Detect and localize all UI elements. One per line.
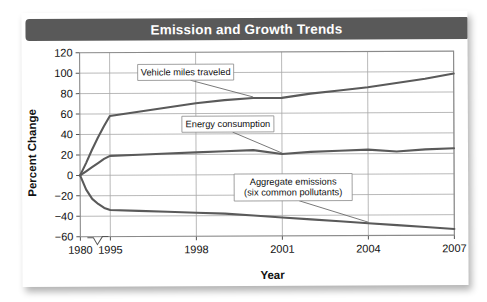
chart-title-banner: Emission and Growth Trends xyxy=(25,17,467,41)
callout-text-line: (six common pollutants) xyxy=(244,187,342,197)
y-axis-label: Percent Change xyxy=(26,109,38,197)
y-tick-label: 80 xyxy=(60,87,72,99)
x-tick-label: 2001 xyxy=(270,243,295,255)
y-axis-ticks-group: 120100806040200−20−40−60 xyxy=(54,47,81,243)
x-tick-label: 1980 xyxy=(68,244,93,256)
y-tick-label: −40 xyxy=(55,210,74,222)
series-line-1 xyxy=(80,148,454,175)
series-callouts-group: Vehicle miles traveledEnergy consumption… xyxy=(138,63,369,223)
y-tick-label: 0 xyxy=(67,169,73,181)
y-tick-label: 60 xyxy=(61,108,73,120)
page-title: Emission and Growth Trends xyxy=(150,21,342,37)
y-tick-label: 20 xyxy=(61,149,73,161)
chart-card: Emission and Growth Trends 1201008060402… xyxy=(21,11,468,287)
line-chart: 120100806040200−20−40−60 198019951998200… xyxy=(22,39,469,287)
y-tick-label: −20 xyxy=(55,190,74,202)
y-tick-label: 100 xyxy=(54,67,72,79)
callout-text-line: Aggregate emissions xyxy=(250,177,337,187)
gridlines-group xyxy=(80,51,455,237)
chart-card-inner: Emission and Growth Trends 1201008060402… xyxy=(21,11,468,287)
callout-text-line: Vehicle miles traveled xyxy=(141,67,231,77)
screenshot-root: Emission and Growth Trends 1201008060402… xyxy=(0,0,487,302)
data-series-group xyxy=(80,74,455,231)
x-axis-label: Year xyxy=(260,269,285,281)
x-tick-label: 1995 xyxy=(98,244,123,256)
x-tick-label: 1998 xyxy=(184,243,209,255)
chart-plot-region: 120100806040200−20−40−60 198019951998200… xyxy=(22,39,469,287)
y-tick-label: 120 xyxy=(54,47,72,59)
callout-text-line: Energy consumption xyxy=(185,119,270,129)
y-tick-label: 40 xyxy=(61,128,73,140)
plot-frame xyxy=(80,51,455,237)
series-callout: Energy consumption xyxy=(182,116,282,154)
x-tick-label: 2007 xyxy=(442,242,467,254)
x-tick-label: 2004 xyxy=(356,242,381,254)
x-axis-ticks-group: 198019951998200120042007 xyxy=(68,235,467,256)
y-tick-label: −60 xyxy=(55,231,74,243)
